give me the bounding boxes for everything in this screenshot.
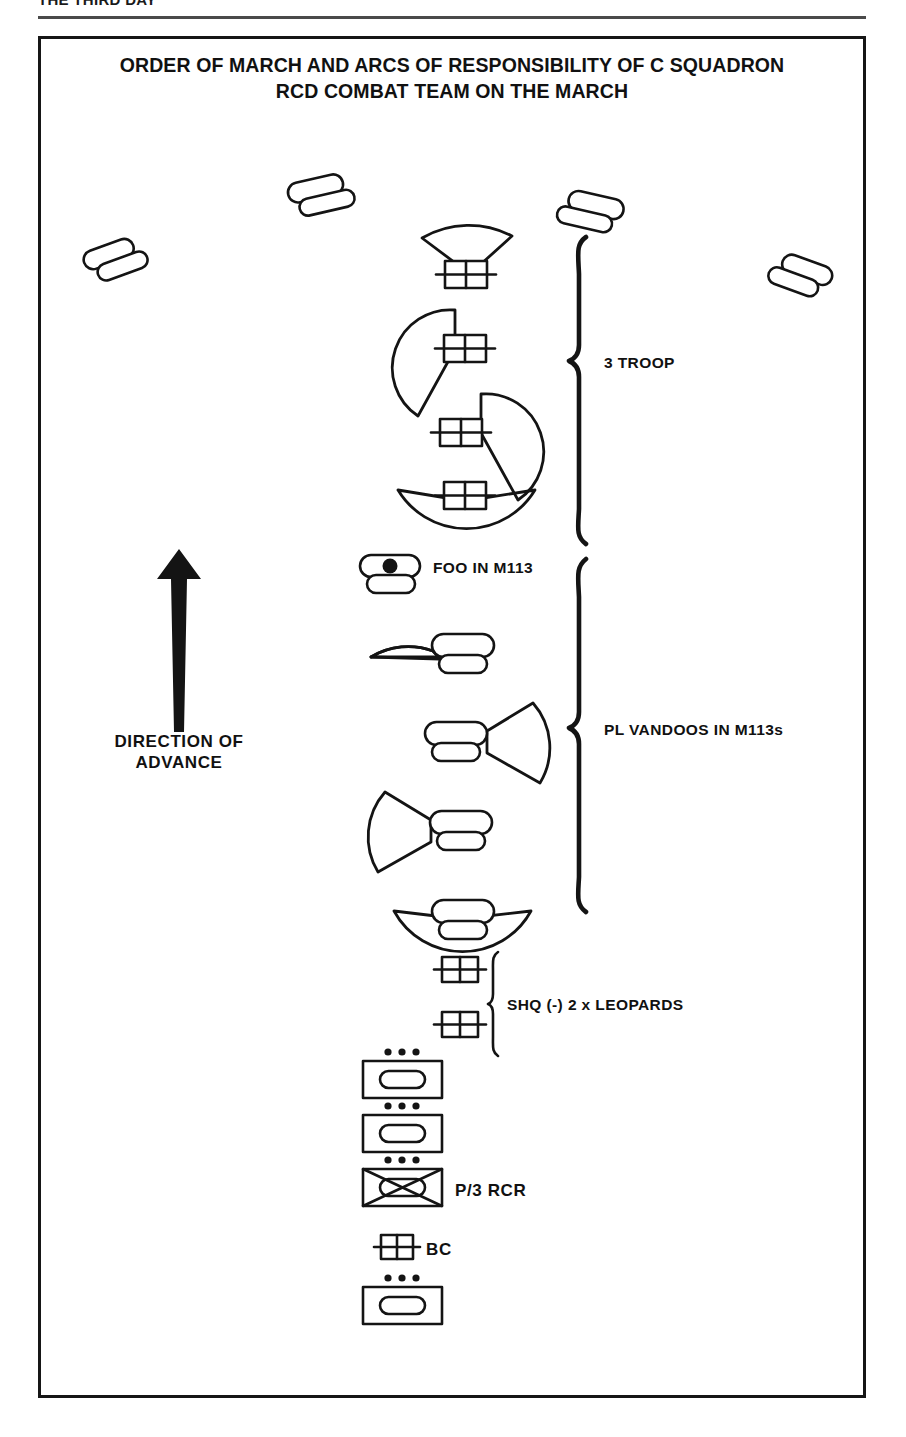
bracket-label-pl-vandoos: PL VANDOOS IN M113s bbox=[604, 721, 783, 738]
running-header-text: THE THIRD DAY bbox=[38, 0, 868, 9]
flank-marker-top-right-outer bbox=[766, 249, 835, 302]
label-direction-line-2: ADVANCE bbox=[135, 753, 222, 772]
tail-apc-platoon-3 bbox=[363, 1274, 442, 1324]
shq-tank-2 bbox=[434, 1012, 486, 1037]
flank-marker-top-left-outer bbox=[81, 233, 150, 286]
direction-of-advance-arrow bbox=[157, 549, 201, 732]
troop-unit-1-tank-front-arc bbox=[422, 225, 512, 288]
vandoos-unit-3-apc-left-arc bbox=[368, 792, 492, 872]
label-foo-in-m113: FOO IN M113 bbox=[433, 559, 533, 576]
tail-apc-platoon-1 bbox=[363, 1048, 442, 1098]
bracket-3-troop bbox=[569, 237, 586, 544]
running-header: THE THIRD DAY bbox=[38, 0, 868, 15]
troop-unit-4-tank-rear-arc bbox=[398, 482, 535, 529]
vandoos-unit-1-apc-left-forward-arc bbox=[371, 634, 494, 673]
figure-frame: ORDER OF MARCH AND ARCS OF RESPONSIBILIT… bbox=[38, 36, 866, 1398]
flank-marker-top-centre-left bbox=[286, 171, 356, 219]
label-direction-line-1: DIRECTION OF bbox=[114, 732, 243, 751]
flank-marker-top-centre-right bbox=[555, 187, 625, 235]
troop-unit-2-tank-left-arc bbox=[392, 310, 495, 416]
label-p3-rcr: P/3 RCR bbox=[455, 1181, 526, 1200]
bracket-label-3-troop: 3 TROOP bbox=[604, 354, 675, 371]
bracket-pl-vandoos bbox=[569, 559, 586, 912]
bracket-label-shq: SHQ (-) 2 x LEOPARDS bbox=[507, 996, 684, 1013]
vandoos-unit-2-apc-right-arc bbox=[425, 703, 550, 783]
header-rule bbox=[38, 16, 866, 19]
vandoos-unit-4-apc-rear-arc bbox=[394, 900, 531, 952]
label-bc: BC bbox=[426, 1240, 452, 1259]
tail-apc-platoon-2 bbox=[363, 1102, 442, 1152]
bracket-shq bbox=[488, 952, 498, 1056]
diagram-canvas: 3 TROOP FOO IN M113 bbox=[41, 39, 869, 1401]
tail-bc-tank bbox=[374, 1235, 420, 1259]
foo-m113-symbol bbox=[360, 555, 420, 593]
page-root: THE THIRD DAY ORDER OF MARCH AND ARCS OF… bbox=[0, 0, 906, 1437]
tail-mech-infantry-platoon bbox=[363, 1156, 442, 1206]
shq-tank-1 bbox=[434, 957, 486, 982]
